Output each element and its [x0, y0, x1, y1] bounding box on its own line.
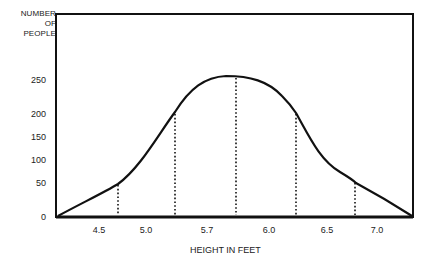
x-tick-6-0: 6.0 [254, 225, 284, 235]
x-tick-5-7: 5.7 [192, 225, 222, 235]
y-tick-200: 200 [16, 109, 46, 119]
distribution-curve [58, 76, 412, 216]
x-tick-4-5: 4.5 [84, 225, 114, 235]
plot-frame [56, 14, 413, 217]
y-axis-label-line-2: OF [21, 19, 56, 29]
y-tick-0: 0 [16, 212, 46, 222]
y-axis-label: NUMBER OF PEOPLE [21, 9, 56, 39]
y-axis-label-line-3: PEOPLE [21, 29, 56, 39]
dotted-reference-lines [118, 78, 355, 215]
x-tick-5-0: 5.0 [131, 225, 161, 235]
x-tick-6-5: 6.5 [312, 225, 342, 235]
y-axis-label-line-1: NUMBER [21, 9, 56, 19]
x-tick-7-0: 7.0 [362, 225, 392, 235]
y-tick-100: 100 [16, 155, 46, 165]
x-axis-label: HEIGHT IN FEET [190, 245, 261, 255]
y-tick-50: 50 [16, 178, 46, 188]
y-tick-150: 150 [16, 132, 46, 142]
y-tick-250: 250 [16, 75, 46, 85]
